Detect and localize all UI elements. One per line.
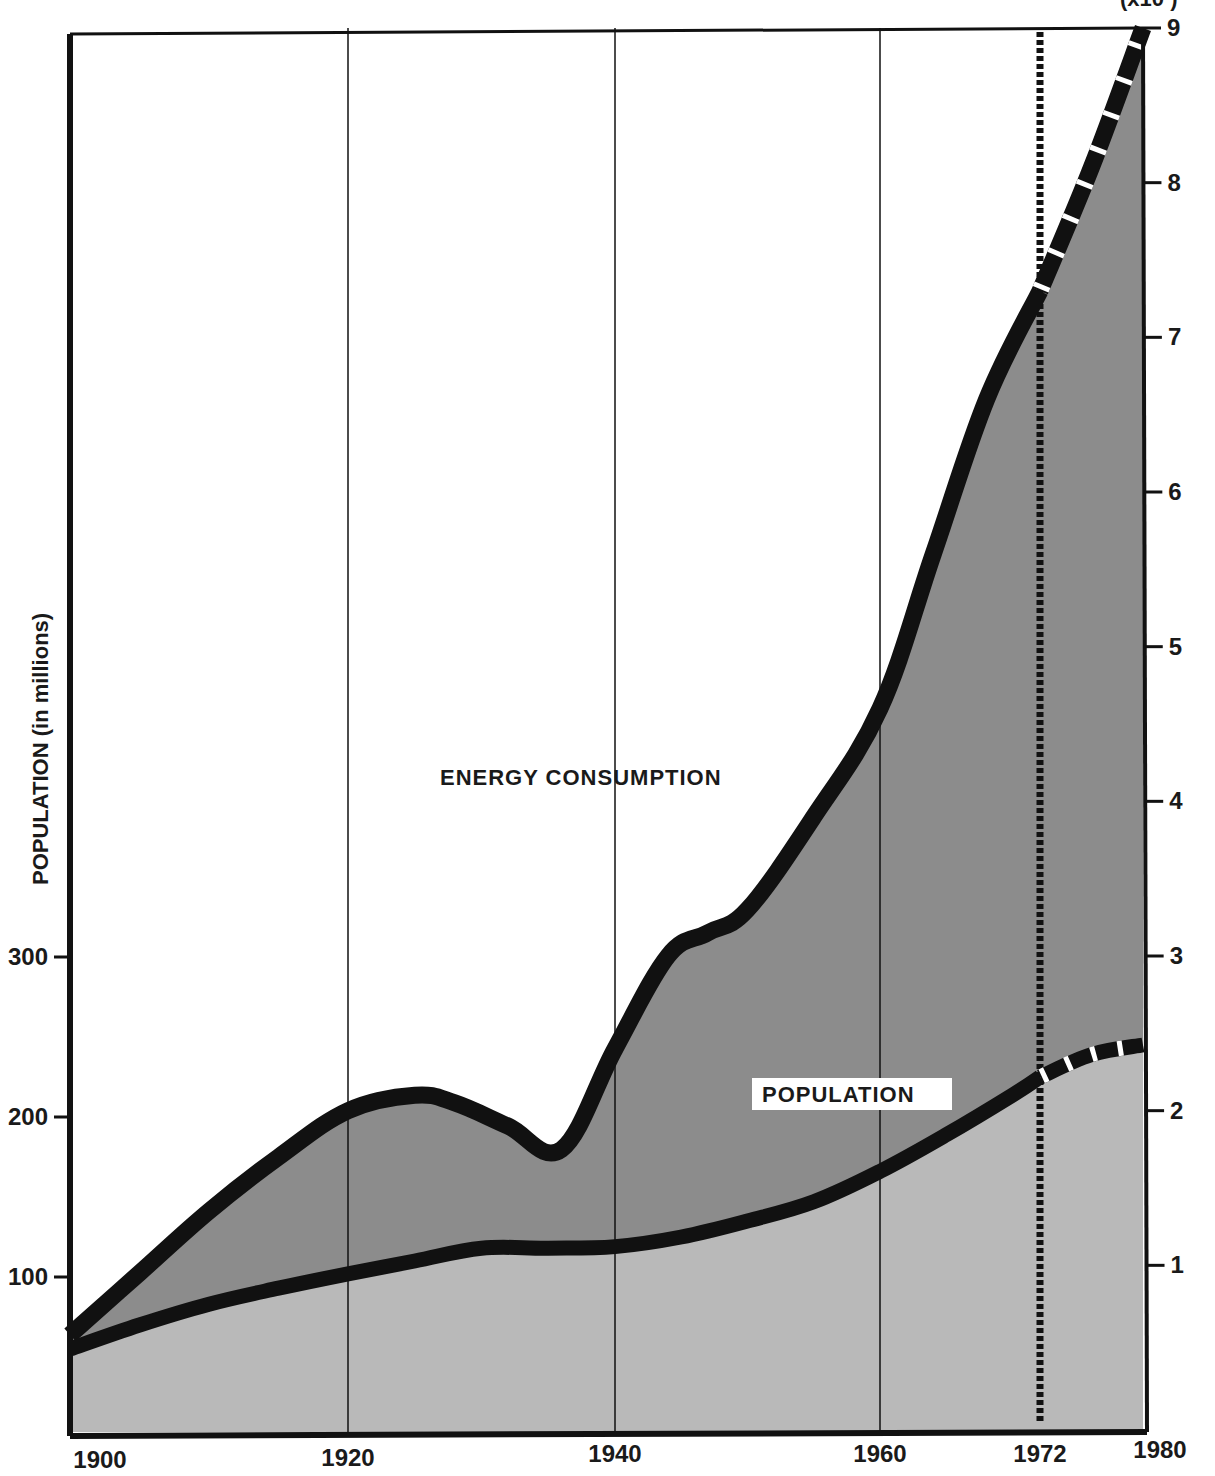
right-tick-label: 2 — [1170, 1097, 1183, 1124]
right-tick-label: 7 — [1168, 323, 1181, 350]
right-tick-label: 5 — [1169, 633, 1182, 660]
x-tick-label-1960: 1960 — [853, 1440, 906, 1467]
right-tick-label: 8 — [1167, 169, 1180, 196]
left-tick-label: 300 — [8, 943, 48, 970]
right-tick-label: 6 — [1168, 478, 1181, 505]
right-axis — [1143, 28, 1147, 1432]
left-axis-title: POPULATION (in millions) — [28, 613, 53, 885]
left-tick-label: 200 — [8, 1103, 48, 1130]
frame-top — [70, 28, 1143, 34]
x-tick-label-1972: 1972 — [1013, 1440, 1066, 1467]
x-tick-label-1920: 1920 — [321, 1444, 374, 1471]
right-tick-label: 4 — [1169, 787, 1183, 814]
energy-consumption-label: ENERGY CONSUMPTION — [440, 765, 722, 790]
right-axis-units: (x10 ) — [1120, 0, 1177, 11]
right-tick-label: 1 — [1171, 1251, 1184, 1278]
right-tick-label: 3 — [1170, 942, 1183, 969]
x-tick-label-1980: 1980 — [1133, 1436, 1186, 1463]
x-tick-label-1940: 1940 — [588, 1440, 641, 1467]
x-tick-label-1900: 1900 — [73, 1446, 126, 1473]
energy-population-chart: 1002003001234567891900192019401960197219… — [0, 0, 1215, 1476]
right-tick-label: 9 — [1167, 14, 1180, 41]
bottom-axis — [70, 1432, 1147, 1436]
left-tick-label: 100 — [8, 1263, 48, 1290]
population-label: POPULATION — [762, 1082, 915, 1107]
plot-area — [70, 28, 1143, 1432]
